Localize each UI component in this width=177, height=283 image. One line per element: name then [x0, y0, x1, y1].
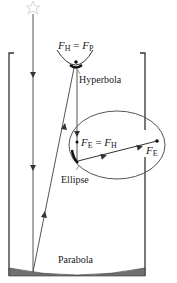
telescope-diagram: FH = FP Hyperbola FE = FH FE Ellipse Par… — [0, 0, 177, 283]
label-ellipse: Ellipse — [61, 174, 89, 185]
star-icon — [26, 1, 40, 14]
label-parabola: Parabola — [58, 254, 94, 265]
label-ellipse-focus-eq: FE = FH — [80, 136, 117, 150]
hyperbola-focus-dot — [74, 60, 78, 64]
label-hyperbola: Hyperbola — [79, 74, 122, 85]
parabolic-mirror — [9, 268, 145, 276]
reflected-ray-arrow-1 — [41, 211, 47, 218]
incoming-ray-arrow-2 — [30, 165, 36, 171]
ray-down-arrow — [74, 131, 80, 137]
incoming-ray-arrow-1 — [30, 72, 36, 78]
tube-right-wall-top — [140, 53, 145, 130]
ellipse-label-leader — [76, 166, 79, 170]
ellipse-near-focus-dot — [76, 141, 79, 144]
label-ellipse-far-focus: FE — [145, 144, 158, 158]
label-hyperbola-focus: FH = FP — [57, 39, 94, 53]
tube-left-wall — [9, 53, 14, 276]
reflected-ray-primary — [33, 68, 74, 272]
ellipse-far-focus-dot — [155, 139, 159, 143]
